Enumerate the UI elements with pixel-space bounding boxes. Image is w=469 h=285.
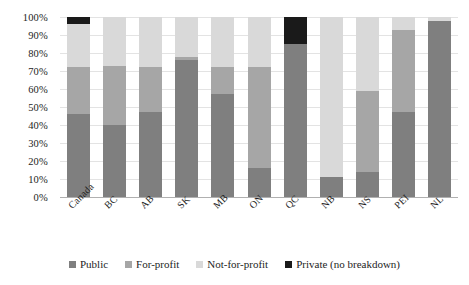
bar-canada [67,17,90,197]
legend-label: Public [80,258,108,270]
legend-swatch-icon [69,261,76,268]
bar-segment-not-for-profit [175,17,198,57]
bar-segment-private-no-breakdown [67,17,90,24]
bar-segment-public [175,60,198,197]
bar-ab [139,17,162,197]
legend-label: For-profit [136,258,179,270]
bar-segment-public [320,177,343,197]
stacked-bar-chart: 100%90%80%70%60%50%40%30%20%10%0% Canada… [0,0,469,285]
y-axis-tick-label: 70% [0,66,54,77]
bar-bc [103,17,126,197]
bar-segment-for-profit [139,67,162,112]
bar-segment-for-profit [392,30,415,113]
bar-segment-private-no-breakdown [284,17,307,44]
bar-segment-public [103,125,126,197]
y-axis-tick-label: 60% [0,84,54,95]
bar-sk [175,17,198,197]
legend-item: Not-for-profit [196,258,268,270]
y-axis-tick-label: 100% [0,12,54,23]
legend-swatch-icon [285,261,292,268]
bar-nb [320,17,343,197]
bar-segment-public [428,21,451,197]
bar-segment-for-profit [211,67,234,94]
y-axis-tick-label: 10% [0,174,54,185]
bar-segment-not-for-profit [392,17,415,30]
x-axis-labels: CanadaBCABSKMBONQCNBNSPEINL [60,199,458,245]
bar-segment-for-profit [175,57,198,61]
bar-segment-public [248,168,271,197]
bar-segment-public [211,94,234,197]
legend-item: Public [69,258,108,270]
bar-segment-for-profit [103,66,126,125]
bar-segment-not-for-profit [139,17,162,67]
bar-mb [211,17,234,197]
bar-segment-public [356,172,379,197]
bar-on [248,17,271,197]
bar-segment-public [392,112,415,197]
bar-segment-not-for-profit [428,17,451,21]
bar-pei [392,17,415,197]
bar-segment-for-profit [356,91,379,172]
y-axis-tick-label: 0% [0,192,54,203]
legend-label: Private (no breakdown) [296,258,400,270]
chart-legend: PublicFor-profitNot-for-profitPrivate (n… [0,258,469,270]
bar-segment-not-for-profit [356,17,379,91]
y-axis-tick-label: 40% [0,120,54,131]
bar-qc [284,17,307,197]
bar-segment-not-for-profit [211,17,234,67]
legend-label: Not-for-profit [207,258,268,270]
bar-ns [356,17,379,197]
y-axis-tick-label: 50% [0,102,54,113]
legend-swatch-icon [125,261,132,268]
y-axis-tick-label: 20% [0,156,54,167]
bar-segment-public [284,44,307,197]
bar-segment-not-for-profit [103,17,126,66]
y-axis-labels: 100%90%80%70%60%50%40%30%20%10%0% [0,17,54,197]
y-axis-tick-label: 80% [0,48,54,59]
bar-segment-not-for-profit [248,17,271,67]
bar-segment-for-profit [67,67,90,114]
bar-segment-for-profit [248,67,271,168]
bar-segment-not-for-profit [67,24,90,67]
bar-nl [428,17,451,197]
bar-segment-public [139,112,162,197]
bar-segment-not-for-profit [320,17,343,177]
legend-swatch-icon [196,261,203,268]
y-axis-tick-label: 90% [0,30,54,41]
legend-item: Private (no breakdown) [285,258,400,270]
legend-item: For-profit [125,258,179,270]
y-axis-tick-label: 30% [0,138,54,149]
plot-area [60,17,458,197]
